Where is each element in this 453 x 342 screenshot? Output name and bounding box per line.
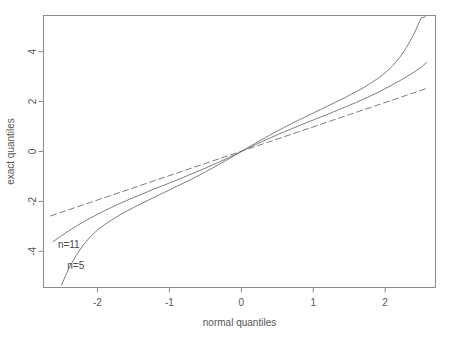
x-axis-title: normal quantiles: [203, 317, 276, 328]
chart-figure: -2-1012 -4-2024 n=5n=11 normal quantiles…: [0, 0, 453, 342]
series-annotations: n=5n=11: [58, 239, 85, 271]
x-tick-label: 1: [310, 297, 316, 308]
y-tick-label: -2: [27, 197, 38, 206]
series-annotation-n-5: n=5: [67, 260, 84, 271]
x-tick-label: -2: [93, 297, 102, 308]
series-line-reference: [51, 88, 429, 216]
series-container: [51, 17, 429, 285]
x-axis-ticks: -2-1012: [93, 288, 388, 308]
x-tick-label: -1: [165, 297, 174, 308]
x-tick-label: 0: [239, 297, 245, 308]
y-tick-label: -4: [27, 246, 38, 255]
series-annotation-n-11: n=11: [58, 239, 80, 250]
x-tick-label: 2: [382, 297, 388, 308]
y-tick-label: 2: [27, 98, 38, 104]
y-axis-title: exact quantiles: [5, 118, 16, 185]
y-tick-label: 4: [27, 48, 38, 54]
y-axis-ticks: -4-2024: [27, 48, 44, 255]
qq-plot-svg: -2-1012 -4-2024 n=5n=11 normal quantiles…: [0, 0, 453, 342]
y-tick-label: 0: [27, 148, 38, 154]
